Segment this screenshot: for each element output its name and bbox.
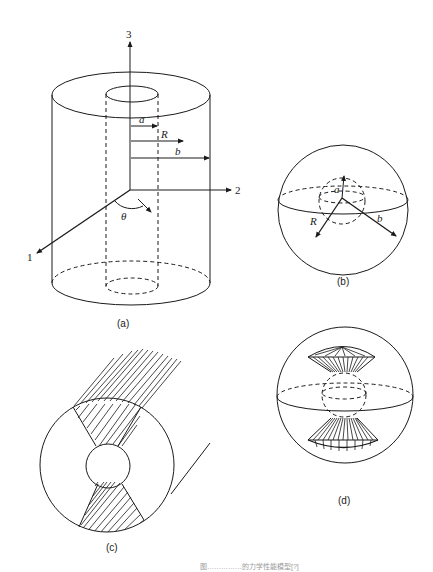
- lower-sector-right-edge: [122, 484, 144, 520]
- inner-radius-label: a: [139, 113, 145, 125]
- inner-radius-label: a: [334, 183, 340, 195]
- axis-1-label: 1: [27, 251, 33, 263]
- top-cone: [308, 347, 375, 373]
- radius-arrow: [316, 198, 342, 237]
- upper-hatched-sector: [72, 404, 142, 446]
- axis-3-label: 3: [126, 28, 132, 40]
- lower-sector-left-edge: [79, 484, 98, 527]
- panel-c-cross-section: (c): [40, 349, 210, 553]
- inner-equator: [322, 387, 366, 399]
- outer-sphere: [277, 327, 413, 463]
- theta-direction-arrow: [138, 199, 151, 212]
- panel-d-label: (d): [338, 495, 350, 506]
- inner-radius-arrow: [342, 176, 344, 198]
- tangent-line: [171, 443, 210, 494]
- lower-hatched-sector: [79, 482, 144, 533]
- theta-arc: [115, 201, 143, 209]
- outer-radius-label: b: [175, 145, 181, 157]
- theta-label: θ: [121, 210, 127, 222]
- figure-caption: 图……………的力学性能模型[?]: [200, 562, 299, 571]
- radius-label: R: [309, 215, 317, 227]
- outer-ring: [40, 398, 174, 532]
- axis-1-arrow: [37, 190, 130, 253]
- equator-front: [278, 200, 408, 214]
- axis-2-label: 2: [235, 184, 241, 196]
- outer-radius-label: b: [377, 212, 383, 224]
- panel-a-label: (a): [117, 318, 129, 329]
- outer-cylinder-bottom-back: [52, 261, 210, 283]
- bottom-cone: [308, 418, 378, 451]
- inner-cylinder-bottom: [106, 278, 158, 294]
- fiber-bundle: [74, 349, 181, 408]
- panel-d-sphere-cones: (d): [277, 327, 413, 506]
- outer-radius-arrow: [342, 198, 396, 236]
- panel-b-label: (b): [337, 276, 349, 287]
- inner-hole: [86, 444, 130, 488]
- inner-cylinder-top: [106, 86, 158, 102]
- radius-label: R: [160, 128, 168, 140]
- upper-sector-left-edge: [73, 407, 96, 446]
- inner-sphere: [322, 373, 366, 417]
- equator-back: [277, 383, 413, 397]
- panel-a-cylinder: 3 2 1 a R b θ (a): [27, 28, 241, 329]
- panel-c-label: (c): [106, 542, 118, 553]
- panel-b-sphere: a R b (b): [278, 145, 408, 287]
- figure-canvas: 3 2 1 a R b θ (a) a R: [0, 0, 433, 572]
- outer-cylinder-top: [52, 72, 210, 118]
